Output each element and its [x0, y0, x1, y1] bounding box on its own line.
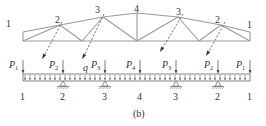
- point-load-label: P2: [203, 59, 213, 71]
- load-arrow-head-icon: [69, 78, 71, 81]
- point-load-P1-left: P1: [8, 59, 24, 74]
- point-load-label: P3: [90, 59, 100, 71]
- load-arrow-head-icon: [219, 78, 221, 81]
- beam-beam-node-3-left: 3: [102, 91, 107, 102]
- load-arrow-head-icon: [104, 78, 106, 81]
- load-arrow-head-icon: [214, 78, 216, 81]
- truss-web: [221, 25, 250, 41]
- load-arrow-head-icon: [175, 70, 178, 74]
- load-arrow-head-icon: [184, 78, 186, 81]
- point-load-label: P2: [48, 59, 58, 71]
- pin-support-icon: [99, 81, 111, 89]
- load-arrow-head-icon: [229, 78, 231, 81]
- truss-web: [103, 17, 137, 41]
- load-arrow-head-icon: [179, 78, 181, 81]
- load-arrow-head-icon: [119, 78, 121, 81]
- beam-node-labels: 1234321: [20, 91, 252, 102]
- pin-support-icon: [57, 81, 69, 89]
- point-load-P2-right: P2: [203, 59, 219, 74]
- point-load-P3-right: P3: [161, 59, 177, 74]
- load-arrow-head-icon: [62, 70, 65, 74]
- truss-web: [60, 25, 82, 41]
- load-arrow-head-icon: [44, 78, 46, 81]
- beam-beam-node-2-right: 2: [215, 91, 220, 102]
- load-arrow-head-icon: [49, 78, 51, 81]
- load-arrow-head-icon: [234, 78, 236, 81]
- beam-beam-node-3-right: 3: [173, 91, 178, 102]
- arrow-head-icon: [206, 51, 210, 57]
- load-arrow-head-icon: [217, 70, 220, 74]
- truss-node-label-1-left: 1: [6, 18, 11, 29]
- load-arrow-head-icon: [109, 78, 111, 81]
- load-arrow-head-icon: [84, 78, 86, 81]
- point-load-P1-right: P1: [235, 59, 251, 74]
- truss-node-label-4: 4: [134, 3, 139, 14]
- point-load-P4: P4: [125, 59, 141, 74]
- load-arrow-head-icon: [39, 78, 41, 81]
- truss-web: [23, 25, 60, 41]
- beam-model: q P1P2P3P4P3P2P1 1234321: [8, 59, 252, 102]
- point-load-label: P1: [8, 59, 18, 71]
- load-arrow-head-icon: [194, 78, 196, 81]
- load-arrow-head-icon: [199, 78, 201, 81]
- figure-caption: (b): [133, 108, 145, 120]
- load-arrow-head-icon: [144, 78, 146, 81]
- load-arrow-head-icon: [224, 78, 226, 81]
- load-arrow-head-icon: [204, 78, 206, 81]
- point-loads: P1P2P3P4P3P2P1: [8, 59, 251, 74]
- load-arrow-head-icon: [64, 78, 66, 81]
- truss-node-label-3-left: 3: [95, 4, 100, 15]
- load-arrow-head-icon: [244, 78, 246, 81]
- arrow-head-icon: [82, 54, 86, 60]
- supports: [57, 81, 224, 89]
- distributed-load-label: q: [83, 62, 88, 73]
- load-arrow-head-icon: [74, 78, 76, 81]
- arrow-head-icon: [160, 47, 164, 53]
- load-arrow-head-icon: [154, 78, 156, 81]
- load-arrow-head-icon: [114, 78, 116, 81]
- load-arrow-head-icon: [59, 78, 61, 81]
- point-load-label: P4: [125, 59, 136, 71]
- truss-beam-diagram: 1 2 3 4 3 2 1 q P1P2P3P4P3P2P1 1234321 (…: [0, 0, 266, 126]
- truss-node-label-2-left: 2: [55, 14, 60, 25]
- point-load-label: P3: [161, 59, 171, 71]
- load-arrow-head-icon: [189, 78, 191, 81]
- beam-beam-node-4: 4: [137, 91, 142, 102]
- load-arrow-head-icon: [34, 78, 36, 81]
- load-arrow-head-icon: [164, 78, 166, 81]
- load-arrow-head-icon: [239, 78, 241, 81]
- load-arrow-head-icon: [104, 70, 107, 74]
- load-arrow-head-icon: [139, 78, 141, 81]
- load-arrow-head-icon: [89, 78, 91, 81]
- pin-support-icon: [212, 81, 224, 89]
- truss-node-label-1-right: 1: [247, 19, 252, 30]
- load-arrow-head-icon: [54, 78, 56, 81]
- load-arrow-head-icon: [22, 70, 25, 74]
- truss: 1 2 3 4 3 2 1: [6, 3, 252, 59]
- truss-node-label-2-right: 2: [215, 14, 220, 25]
- point-load-label: P1: [235, 59, 245, 71]
- load-arrow-head-icon: [94, 78, 96, 81]
- truss-web: [137, 17, 178, 41]
- load-arrow-head-icon: [124, 78, 126, 81]
- load-arrow-head-icon: [99, 78, 101, 81]
- truss-node-label-3-right: 3: [176, 6, 181, 17]
- point-load-P3-left: P3: [90, 59, 106, 74]
- load-arrow-head-icon: [149, 78, 151, 81]
- beam-beam-node-1-right: 1: [247, 91, 252, 102]
- point-load-P2-left: P2: [48, 59, 64, 74]
- load-arrow-head-icon: [249, 70, 252, 74]
- load-arrow-head-icon: [209, 78, 211, 81]
- beam-beam-node-1-left: 1: [20, 91, 25, 102]
- load-arrow-head-icon: [169, 78, 171, 81]
- load-arrow-head-icon: [79, 78, 81, 81]
- pin-support-icon: [170, 81, 182, 89]
- beam-beam-node-2-left: 2: [60, 91, 65, 102]
- arrow-head-icon: [42, 54, 46, 60]
- load-arrow-head-icon: [139, 70, 142, 74]
- load-arrow-head-icon: [134, 78, 136, 81]
- load-arrow-head-icon: [24, 78, 26, 81]
- load-arrow-head-icon: [129, 78, 131, 81]
- load-arrow-head-icon: [159, 78, 161, 81]
- load-arrow-head-icon: [174, 78, 176, 81]
